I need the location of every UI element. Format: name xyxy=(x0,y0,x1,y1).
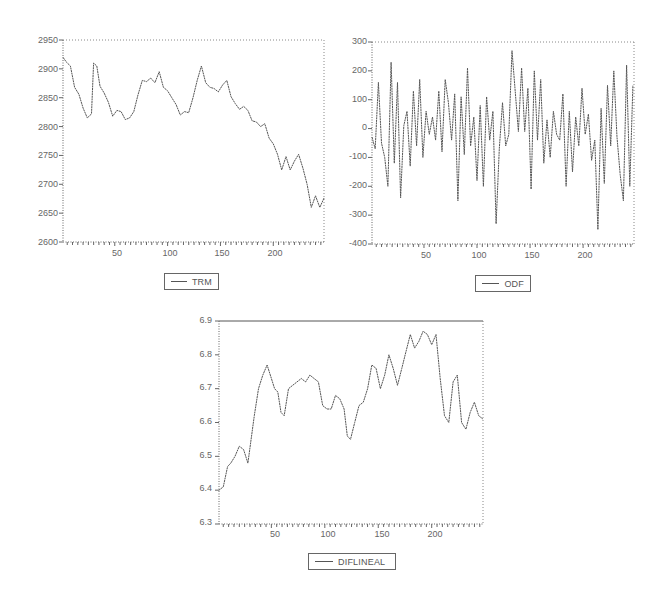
odf-chart: 300 200 100 0 -100 -200 -300 -400 50 100… xyxy=(331,0,662,300)
odf-plot xyxy=(331,0,662,300)
trm-legend: TRM xyxy=(164,273,219,290)
series-line-trm xyxy=(63,57,324,207)
legend-line-swatch xyxy=(171,281,187,282)
diflineal-plot xyxy=(170,300,501,596)
plot-frame xyxy=(215,321,483,528)
trm-chart: 2950 2900 2850 2800 2750 2700 2650 2600 … xyxy=(0,0,331,300)
trm-plot xyxy=(0,0,331,300)
legend-line-swatch xyxy=(482,283,499,284)
series-line-odf xyxy=(372,51,633,230)
diflineal-legend: DIFLINEAL xyxy=(308,553,396,570)
diflineal-chart: 6.9 6.8 6.7 6.6 6.5 6.4 6.3 50 100 150 2… xyxy=(170,300,501,596)
plot-frame xyxy=(59,40,324,246)
series-line-diflineal xyxy=(219,331,483,490)
odf-legend: ODF xyxy=(475,275,531,292)
legend-line-swatch xyxy=(315,561,333,562)
legend-label: ODF xyxy=(504,279,524,289)
legend-label: DIFLINEAL xyxy=(338,557,385,567)
legend-label: TRM xyxy=(192,277,212,287)
